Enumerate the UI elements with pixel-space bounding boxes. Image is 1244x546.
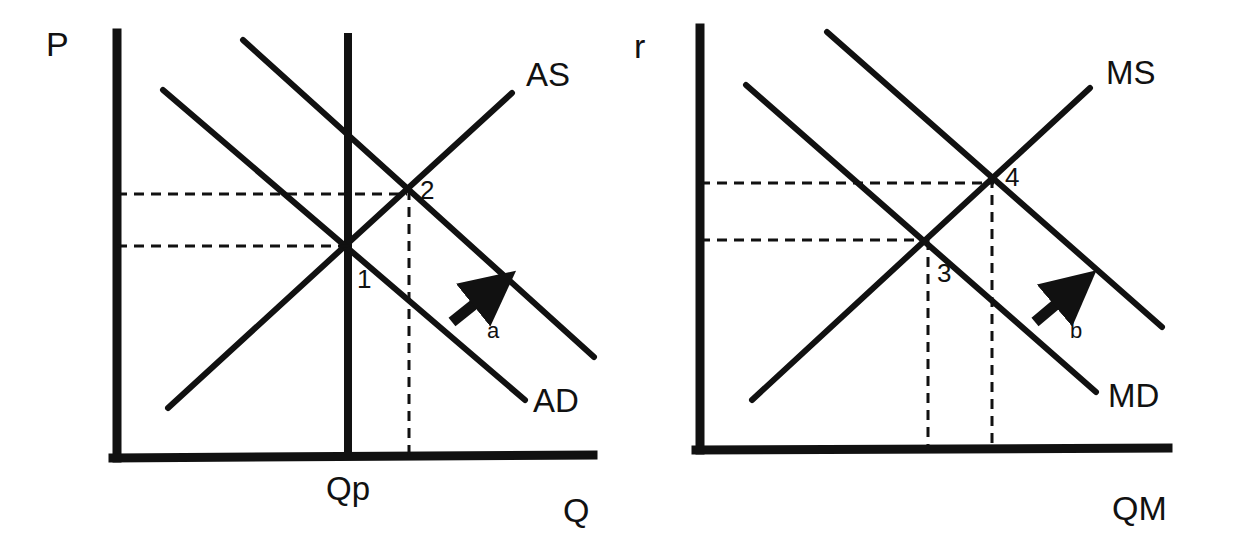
equilibrium-point-4-label: 4 xyxy=(1005,162,1019,192)
md-curve-label: MD xyxy=(1108,377,1159,414)
shift-arrow-a xyxy=(452,290,492,322)
right-y-axis-label: r xyxy=(634,27,645,65)
shift-arrow-a-label: a xyxy=(487,318,500,343)
ms-curve-label: MS xyxy=(1106,54,1156,91)
right-panel-group: r QM MS MD 3 4 b xyxy=(634,27,1168,527)
right-x-axis-label: QM xyxy=(1112,489,1167,527)
left-panel-group: P Q AS AD Qp 1 2 a xyxy=(46,25,594,529)
equilibrium-point-3-label: 3 xyxy=(937,258,951,288)
economics-diagram-canvas: P Q AS AD Qp 1 2 a xyxy=(0,0,1244,546)
equilibrium-point-2-label: 2 xyxy=(420,175,434,205)
left-x-axis xyxy=(113,455,593,458)
ad-curve-label: AD xyxy=(533,382,579,419)
left-y-axis-label: P xyxy=(46,25,69,63)
potential-output-label: Qp xyxy=(326,470,370,507)
right-x-axis xyxy=(696,448,1168,450)
as-curve-label: AS xyxy=(526,56,570,93)
shift-arrow-b-label: b xyxy=(1070,318,1082,343)
equilibrium-point-1-label: 1 xyxy=(357,264,371,294)
left-x-axis-label: Q xyxy=(563,491,589,529)
diagram-svg: P Q AS AD Qp 1 2 a xyxy=(0,0,1244,546)
shift-arrow-b xyxy=(1035,290,1073,322)
